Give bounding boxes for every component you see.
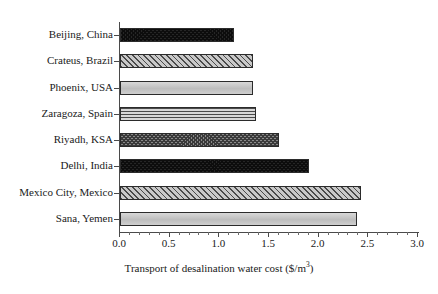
bar-phoenix-usa bbox=[120, 81, 253, 95]
bar-series bbox=[120, 22, 418, 232]
x-axis-minor-tick bbox=[258, 232, 259, 235]
y-axis-tick bbox=[114, 166, 119, 167]
y-axis-tick bbox=[114, 140, 119, 141]
bar-row bbox=[120, 159, 418, 173]
x-axis-minor-tick bbox=[208, 232, 209, 235]
category-label: Zaragoza, Spain bbox=[42, 108, 113, 119]
x-axis-minor-tick bbox=[278, 232, 279, 235]
bar-row bbox=[120, 107, 418, 121]
x-axis-minor-tick bbox=[387, 232, 388, 235]
y-axis-tick bbox=[114, 61, 119, 62]
bar-riyadh-ksa bbox=[120, 133, 279, 147]
x-axis-minor-tick bbox=[338, 232, 339, 235]
category-label: Riyadh, KSA bbox=[54, 134, 113, 145]
bar-zaragoza-spain bbox=[120, 107, 256, 121]
bar-row bbox=[120, 212, 418, 226]
y-axis-tick bbox=[114, 193, 119, 194]
x-axis-minor-tick bbox=[149, 232, 150, 235]
category-label: Crateus, Brazil bbox=[47, 55, 113, 66]
bar-row bbox=[120, 81, 418, 95]
bar-row bbox=[120, 28, 418, 42]
bar-row bbox=[120, 133, 418, 147]
x-axis-minor-tick bbox=[189, 232, 190, 235]
bar-sana-yemen bbox=[120, 212, 357, 226]
x-axis-tick-label: 1.0 bbox=[198, 238, 238, 249]
bar-row bbox=[120, 54, 418, 68]
x-axis-minor-tick bbox=[198, 232, 199, 235]
bar-chart-figure: Beijing, ChinaCrateus, BrazilPhoenix, US… bbox=[0, 0, 438, 294]
x-axis-tick-label: 2.0 bbox=[298, 238, 338, 249]
bar-crateus-brazil bbox=[120, 54, 253, 68]
y-axis-tick bbox=[114, 114, 119, 115]
category-label: Phoenix, USA bbox=[49, 82, 113, 93]
x-axis-title-suffix: ) bbox=[310, 262, 314, 274]
x-axis-title: Transport of desalination water cost ($/… bbox=[0, 262, 438, 274]
x-axis-minor-tick bbox=[179, 232, 180, 235]
x-axis-tick-label: 0.5 bbox=[149, 238, 189, 249]
y-axis-tick bbox=[114, 88, 119, 89]
x-axis-minor-tick bbox=[228, 232, 229, 235]
bar-beijing-china bbox=[120, 28, 234, 42]
x-axis-minor-tick bbox=[357, 232, 358, 235]
category-label: Beijing, China bbox=[49, 29, 113, 40]
x-axis-minor-tick bbox=[298, 232, 299, 235]
x-axis-minor-tick bbox=[139, 232, 140, 235]
x-axis-minor-tick bbox=[407, 232, 408, 235]
x-axis-tick-label: 2.5 bbox=[347, 238, 387, 249]
x-axis-line bbox=[119, 232, 419, 233]
bar-row bbox=[120, 186, 418, 200]
x-axis-minor-tick bbox=[248, 232, 249, 235]
x-axis-minor-tick bbox=[377, 232, 378, 235]
x-axis-tick-label: 0.0 bbox=[99, 238, 139, 249]
bar-delhi-india bbox=[120, 159, 309, 173]
bar-mexico-city-mexico bbox=[120, 186, 361, 200]
x-axis-tick-label: 1.5 bbox=[248, 238, 288, 249]
x-axis-minor-tick bbox=[347, 232, 348, 235]
x-axis-minor-tick bbox=[288, 232, 289, 235]
x-axis-title-text: Transport of desalination water cost ($/… bbox=[125, 262, 306, 274]
x-axis-minor-tick bbox=[238, 232, 239, 235]
x-axis-minor-tick bbox=[159, 232, 160, 235]
x-axis-minor-tick bbox=[397, 232, 398, 235]
category-label: Mexico City, Mexico bbox=[19, 187, 113, 198]
category-label: Sana, Yemen bbox=[56, 213, 113, 224]
x-axis-minor-tick bbox=[308, 232, 309, 235]
x-axis-tick-label: 3.0 bbox=[397, 238, 437, 249]
x-axis-minor-tick bbox=[328, 232, 329, 235]
y-axis-tick bbox=[114, 219, 119, 220]
category-label: Delhi, India bbox=[60, 160, 113, 171]
y-axis-tick bbox=[114, 35, 119, 36]
x-axis-minor-tick bbox=[129, 232, 130, 235]
category-axis-labels: Beijing, ChinaCrateus, BrazilPhoenix, US… bbox=[0, 22, 113, 232]
